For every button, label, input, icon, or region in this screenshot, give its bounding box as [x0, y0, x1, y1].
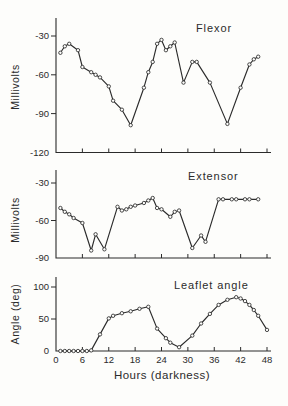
data-point	[221, 198, 224, 201]
data-point	[90, 349, 93, 352]
data-line-flexor	[60, 40, 258, 125]
data-point	[155, 206, 158, 209]
data-point	[243, 198, 246, 201]
data-point	[235, 296, 238, 299]
data-point	[257, 198, 260, 201]
x-tick-label: 36	[209, 354, 220, 365]
data-point	[147, 199, 150, 202]
data-point	[129, 310, 132, 313]
y-axis-label-flexor-millivolts: Millivolts	[9, 64, 21, 110]
data-point	[173, 41, 176, 44]
y-tick-label: -60	[35, 215, 49, 226]
data-point	[59, 206, 62, 209]
data-point	[252, 308, 255, 311]
y-axis-label-extensor-millivolts: Millivolts	[9, 197, 21, 243]
data-point	[252, 58, 255, 61]
x-axis-title: Hours (darkness)	[114, 369, 210, 381]
data-point	[208, 81, 211, 84]
y-tick-label: -120	[30, 147, 49, 158]
data-point	[239, 297, 242, 300]
data-point	[257, 55, 260, 58]
data-point	[226, 122, 229, 125]
data-point	[68, 349, 71, 352]
data-point	[98, 76, 101, 79]
data-point	[125, 208, 128, 211]
x-tick-label: 24	[156, 354, 167, 365]
data-point	[111, 99, 114, 102]
data-point	[217, 303, 220, 306]
data-point	[142, 86, 145, 89]
data-point	[226, 298, 229, 301]
three-panel-line-chart: -30-60-90-120-30-60-90100500061218243036…	[0, 0, 288, 406]
data-point	[76, 349, 79, 352]
panel-title-flexor: Flexor	[196, 22, 232, 34]
data-point	[169, 45, 172, 48]
y-tick-label: 0	[44, 345, 49, 356]
data-point	[90, 71, 93, 74]
x-tick-label: 6	[80, 354, 85, 365]
data-point	[147, 305, 150, 308]
data-point	[160, 208, 163, 211]
data-point	[63, 210, 66, 213]
plot-canvas: -30-60-90-120-30-60-90100500061218243036…	[0, 0, 288, 406]
data-point	[204, 240, 207, 243]
data-point	[160, 38, 163, 41]
y-tick-label: -30	[35, 30, 49, 41]
panel-title-leaflet-angle: Leaflet angle	[174, 279, 249, 291]
y-tick-label: 100	[33, 281, 49, 292]
data-point	[151, 60, 154, 63]
x-tick-label: 42	[235, 354, 246, 365]
data-point	[68, 42, 71, 45]
data-point	[59, 349, 62, 352]
data-point	[68, 213, 71, 216]
data-point	[243, 299, 246, 302]
data-point	[98, 333, 101, 336]
data-point	[169, 215, 172, 218]
data-point	[195, 60, 198, 63]
data-point	[90, 249, 93, 252]
data-point	[248, 303, 251, 306]
data-point	[191, 334, 194, 337]
y-tick-label: -90	[35, 108, 49, 119]
data-point	[142, 201, 145, 204]
data-point	[147, 71, 150, 74]
data-point	[120, 312, 123, 315]
data-line-leaflet-angle	[60, 297, 267, 351]
data-point	[107, 317, 110, 320]
data-point	[63, 349, 66, 352]
data-point	[129, 205, 132, 208]
data-point	[63, 45, 66, 48]
data-point	[239, 86, 242, 89]
y-tick-label: 50	[38, 313, 49, 324]
data-point	[133, 204, 136, 207]
y-tick-label: -90	[35, 252, 49, 263]
data-line-extensor	[60, 198, 258, 251]
data-point	[81, 221, 84, 224]
data-point	[164, 337, 167, 340]
data-point	[94, 233, 97, 236]
data-point	[199, 322, 202, 325]
data-point	[129, 124, 132, 127]
data-point	[169, 341, 172, 344]
y-tick-label: -60	[35, 69, 49, 80]
data-point	[107, 85, 110, 88]
x-tick-label: 12	[103, 354, 114, 365]
data-point	[217, 198, 220, 201]
data-point	[85, 349, 88, 352]
data-point	[72, 216, 75, 219]
data-point	[191, 246, 194, 249]
data-point	[248, 198, 251, 201]
axis-lines-panel-0	[56, 18, 271, 153]
data-point	[120, 108, 123, 111]
x-tick-label: 0	[53, 354, 58, 365]
y-tick-label: -30	[35, 177, 49, 188]
data-point	[151, 196, 154, 199]
data-point	[103, 248, 106, 251]
data-point	[155, 42, 158, 45]
data-point	[199, 234, 202, 237]
x-tick-label: 48	[262, 354, 273, 365]
x-tick-label: 18	[130, 354, 141, 365]
data-point	[208, 312, 211, 315]
data-point	[76, 49, 79, 52]
data-point	[173, 210, 176, 213]
